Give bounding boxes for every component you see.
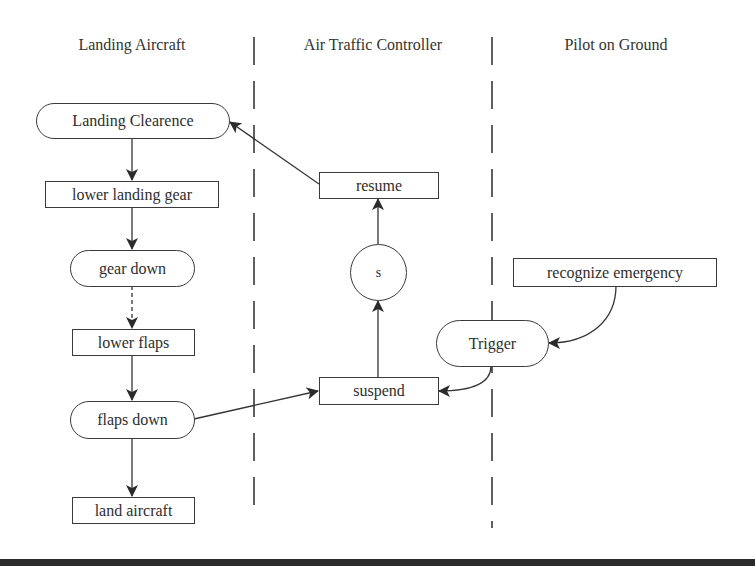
swimlane-diagram: Landing Aircraft Air Traffic Controller … bbox=[0, 0, 755, 566]
node-label: flaps down bbox=[97, 411, 168, 429]
node-flaps-down: flaps down bbox=[70, 401, 195, 439]
node-trigger: Trigger bbox=[436, 320, 549, 367]
lane-title-landing-aircraft: Landing Aircraft bbox=[78, 36, 185, 54]
bottom-border-bar bbox=[0, 559, 755, 566]
node-landing-clearence: Landing Clearence bbox=[36, 103, 230, 139]
node-lower-landing-gear: lower landing gear bbox=[45, 181, 219, 208]
node-lower-flaps: lower flaps bbox=[72, 329, 195, 356]
edge-recognize-to-trigger bbox=[549, 286, 616, 343]
lane-title-pilot-on-ground: Pilot on Ground bbox=[564, 36, 667, 54]
node-label: gear down bbox=[99, 260, 166, 278]
node-suspend: suspend bbox=[319, 377, 439, 405]
node-label: suspend bbox=[353, 382, 405, 400]
node-label: land aircraft bbox=[95, 502, 173, 520]
node-resume: resume bbox=[319, 172, 439, 199]
node-label: lower flaps bbox=[98, 334, 170, 352]
node-label: lower landing gear bbox=[72, 186, 192, 204]
node-land-aircraft: land aircraft bbox=[72, 497, 195, 524]
edge-trigger-to-suspend bbox=[439, 366, 491, 391]
node-label: s bbox=[376, 265, 381, 281]
node-gear-down: gear down bbox=[70, 250, 195, 287]
node-recognize-emergency: recognize emergency bbox=[513, 258, 717, 287]
node-label: recognize emergency bbox=[547, 264, 683, 282]
edge-flaps-down-to-suspend bbox=[194, 391, 318, 419]
node-label: Landing Clearence bbox=[72, 112, 193, 130]
lane-title-air-traffic-controller: Air Traffic Controller bbox=[304, 36, 442, 54]
node-label: Trigger bbox=[469, 335, 516, 353]
edge-resume-to-clearence bbox=[230, 122, 319, 184]
node-label: resume bbox=[356, 177, 402, 195]
node-s-circle: s bbox=[350, 244, 407, 301]
